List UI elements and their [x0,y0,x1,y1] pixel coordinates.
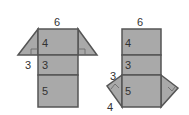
face-label-5: 5 [125,85,131,97]
face-label-4: 4 [42,37,48,49]
right-triangle-face [161,75,178,107]
net-right: 6 4 3 5 3 4 [107,16,178,113]
face-label-3: 3 [125,59,131,71]
nets-diagram: 6 4 3 5 3 6 4 3 5 3 4 [0,0,189,115]
top-label: 6 [54,16,60,28]
side-label-3: 3 [110,70,116,82]
net-left: 6 4 3 5 3 [18,16,97,107]
face-label-4: 4 [125,37,131,49]
right-triangle-face [78,29,97,55]
top-label: 6 [137,16,143,28]
face-label-3: 3 [42,59,48,71]
side-label-4: 4 [107,101,113,113]
face-label-5: 5 [42,85,48,97]
left-triangle-face [18,29,38,55]
side-label: 3 [25,59,31,71]
